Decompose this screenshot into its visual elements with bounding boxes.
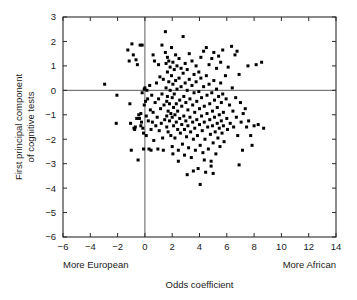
y-tick-label: 2	[51, 36, 56, 47]
data-point	[232, 126, 235, 129]
data-point	[212, 141, 215, 144]
data-point	[222, 111, 225, 114]
data-point	[190, 156, 193, 159]
data-point	[141, 127, 144, 130]
x-tick-label: 2	[170, 241, 175, 252]
data-point	[238, 163, 241, 166]
data-point	[208, 118, 211, 121]
data-point	[196, 134, 199, 137]
data-point	[129, 122, 132, 125]
data-point	[178, 77, 181, 80]
data-point	[167, 130, 170, 133]
data-point	[171, 61, 174, 64]
data-point	[231, 86, 234, 89]
data-point	[179, 132, 182, 135]
data-point	[143, 104, 146, 107]
data-point	[249, 134, 252, 137]
data-point	[220, 119, 223, 122]
data-point	[142, 148, 145, 151]
data-point	[199, 77, 202, 80]
data-point	[145, 89, 148, 92]
data-point	[176, 128, 179, 131]
data-point	[239, 101, 242, 104]
data-point	[172, 106, 175, 109]
data-point	[203, 105, 206, 108]
data-point	[251, 144, 254, 147]
data-point	[171, 96, 174, 99]
data-point	[204, 171, 207, 174]
data-point	[178, 99, 181, 102]
data-point	[203, 121, 206, 124]
data-point	[201, 151, 204, 154]
data-point	[218, 127, 221, 130]
data-point	[164, 51, 167, 54]
data-point	[162, 78, 165, 81]
data-point	[212, 172, 215, 175]
data-point	[145, 134, 148, 137]
data-point	[186, 124, 189, 127]
data-point	[182, 35, 185, 38]
data-point	[173, 93, 176, 96]
y-tick-label: −5	[45, 207, 56, 218]
data-point	[165, 100, 168, 103]
data-point	[197, 71, 200, 74]
data-point	[103, 83, 106, 86]
data-point	[167, 110, 170, 113]
x-tick-label: 0	[142, 241, 147, 252]
data-point	[202, 50, 205, 53]
data-point	[215, 88, 218, 91]
data-point	[195, 64, 198, 67]
data-point	[203, 138, 206, 141]
x-tick-label: 10	[276, 241, 287, 252]
x-axis-title: Odds coefficient	[166, 279, 234, 290]
data-point	[160, 122, 163, 125]
data-point	[187, 146, 190, 149]
data-point	[221, 93, 224, 96]
data-point	[236, 134, 239, 137]
data-point	[148, 84, 151, 87]
data-point	[186, 173, 189, 176]
data-point	[219, 82, 222, 85]
data-point	[184, 62, 187, 65]
y-tick-label: −1	[45, 109, 56, 120]
data-point	[183, 128, 186, 131]
data-point	[172, 124, 175, 127]
data-point	[213, 116, 216, 119]
data-point	[240, 121, 243, 124]
data-point	[197, 90, 200, 93]
data-point	[171, 152, 174, 155]
data-point	[171, 83, 174, 86]
x-tick-label: −2	[112, 241, 123, 252]
data-point	[154, 101, 157, 104]
plot-canvas: −6−4−202468101214 3210−1−2−3−4−5−6 Odds …	[0, 0, 357, 300]
data-point	[165, 115, 168, 118]
data-point	[218, 113, 221, 116]
data-point	[210, 57, 213, 60]
data-point	[182, 72, 185, 75]
data-point	[158, 129, 161, 132]
data-point	[147, 119, 150, 122]
data-point	[130, 149, 133, 152]
y-tick-label: −3	[45, 158, 56, 169]
data-point	[173, 137, 176, 140]
data-point	[217, 95, 220, 98]
y-tick-label: 0	[51, 85, 56, 96]
data-point	[186, 108, 189, 111]
data-point	[166, 95, 169, 98]
data-point	[175, 102, 178, 105]
data-point	[195, 80, 198, 83]
data-point	[169, 89, 172, 92]
data-point	[220, 101, 223, 104]
data-point	[210, 160, 213, 163]
data-point	[219, 61, 222, 64]
y-tick-label: −4	[45, 183, 56, 194]
data-point	[174, 53, 177, 56]
data-point	[226, 128, 229, 131]
data-point	[192, 138, 195, 141]
data-point	[186, 68, 189, 71]
data-point	[115, 122, 118, 125]
data-point	[245, 126, 248, 129]
data-point	[157, 97, 160, 100]
y-axis-title-line1: First principal component	[13, 74, 24, 180]
data-point	[136, 63, 139, 66]
